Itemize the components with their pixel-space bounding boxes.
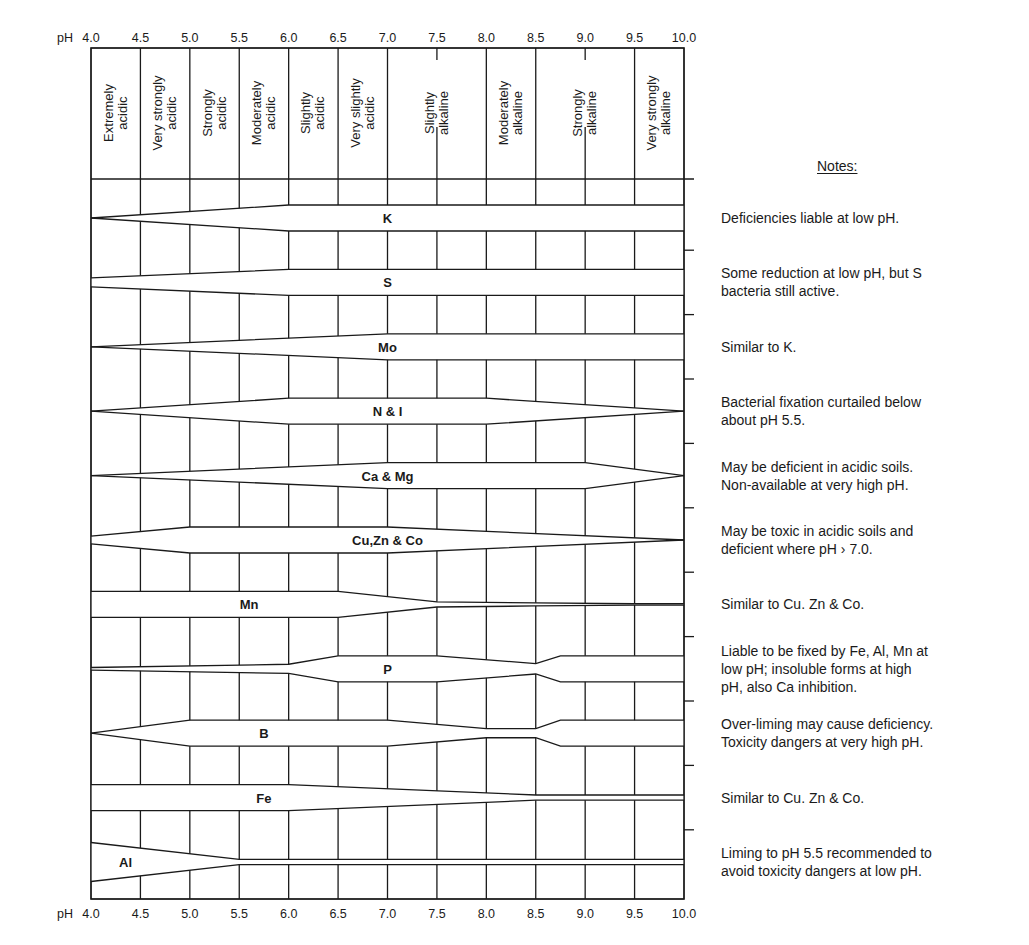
ph-tick-label-top: 8.5 [527, 31, 544, 45]
ph-tick-label-top: 4.5 [132, 31, 149, 45]
note-line: Similar to Cu. Zn & Co. [721, 789, 1021, 807]
ph-class-label: Strongly [570, 89, 585, 137]
ph-class-label: Very slightly [348, 78, 363, 148]
note-line: Non-available at very high pH. [721, 476, 1021, 494]
ph-tick-label-bottom: 8.0 [478, 907, 495, 921]
ph-class-label: acidic [362, 96, 377, 130]
ph-tick-label-top: 7.5 [428, 31, 445, 45]
note-item: Liming to pH 5.5 recommended toavoid tox… [721, 844, 1021, 880]
nutrient-label: Ca & Mg [362, 469, 414, 484]
note-line: Liable to be fixed by Fe, Al, Mn at [721, 642, 1021, 660]
ph-tick-label-bottom: 6.0 [280, 907, 297, 921]
ph-tick-label-top: 8.0 [478, 31, 495, 45]
ph-tick-label-top: 6.5 [329, 31, 346, 45]
ph-tick-label-top: 10.0 [672, 31, 696, 45]
ph-tick-label-top: 6.0 [280, 31, 297, 45]
note-line: Some reduction at low pH, but S [721, 264, 1021, 282]
ph-class-label: acidic [312, 96, 327, 130]
note-line: bacteria still active. [721, 282, 1021, 300]
ph-tick-label-bottom: 6.5 [329, 907, 346, 921]
ph-class-label: Very strongly [150, 75, 165, 151]
ph-class-header: ExtremelyacidicVery stronglyacidicStrong… [101, 48, 674, 179]
ph-class-label: Moderately [496, 80, 511, 145]
note-line: Toxicity dangers at very high pH. [721, 733, 1021, 751]
ph-tick-label-top: 5.5 [231, 31, 248, 45]
ph-tick-label-bottom: 4.0 [82, 907, 99, 921]
ph-tick-label-top: 5.0 [181, 31, 198, 45]
note-line: Over-liming may cause deficiency. [721, 715, 1021, 733]
note-item: Similar to Cu. Zn & Co. [721, 595, 1021, 613]
note-item: Over-liming may cause deficiency.Toxicit… [721, 715, 1021, 751]
ph-tick-label-bottom: 5.0 [181, 907, 198, 921]
note-item: Similar to K. [721, 338, 1021, 356]
ph-class-label: alkaline [510, 91, 525, 135]
ph-class-label: alkaline [584, 91, 599, 135]
note-line: May be deficient in acidic soils. [721, 458, 1021, 476]
axis-prefix-bottom: pH [57, 907, 73, 921]
axis-prefix-top: pH [57, 31, 73, 45]
note-item: May be toxic in acidic soils anddeficien… [721, 522, 1021, 558]
note-line: Liming to pH 5.5 recommended to [721, 844, 1021, 862]
note-line: low pH; insoluble forms at high [721, 660, 1021, 678]
ph-tick-label-bottom: 7.5 [428, 907, 445, 921]
ph-class-label: Very strongly [644, 75, 659, 151]
ph-class-label: Strongly [200, 89, 215, 137]
note-line: pH, also Ca inhibition. [721, 678, 1021, 696]
ph-tick-label-top: 9.0 [576, 31, 593, 45]
ph-class-label: Slightly [298, 92, 313, 134]
nutrient-label: K [383, 211, 393, 226]
nutrient-label: B [259, 726, 268, 741]
nutrient-label: Mn [240, 597, 259, 612]
ph-class-label: Extremely [101, 84, 116, 142]
note-line: Similar to K. [721, 338, 1021, 356]
note-line: deficient where pH › 7.0. [721, 540, 1021, 558]
ph-tick-label-bottom: 9.0 [576, 907, 593, 921]
ph-tick-label-bottom: 4.5 [132, 907, 149, 921]
note-line: Bacterial fixation curtailed below [721, 393, 1021, 411]
nutrient-label: Mo [378, 340, 397, 355]
ph-class-label: acidic [115, 96, 130, 130]
ph-class-label: acidic [263, 96, 278, 130]
note-item: May be deficient in acidic soils.Non-ava… [721, 458, 1021, 494]
note-line: avoid toxicity dangers at low pH. [721, 862, 1021, 880]
note-line: Deficiencies liable at low pH. [721, 209, 1021, 227]
ph-tick-label-top: 9.5 [626, 31, 643, 45]
nutrient-label: N & I [373, 404, 403, 419]
ph-tick-label-bottom: 10.0 [672, 907, 696, 921]
ph-tick-label-bottom: 7.0 [379, 907, 396, 921]
nutrient-label: S [383, 275, 392, 290]
ph-tick-label-bottom: 8.5 [527, 907, 544, 921]
nutrient-label: P [383, 662, 392, 677]
ph-tick-label-bottom: 9.5 [626, 907, 643, 921]
note-line: May be toxic in acidic soils and [721, 522, 1021, 540]
nutrient-band-fill [91, 720, 684, 746]
ph-class-label: alkaline [436, 91, 451, 135]
ph-class-label: Moderately [249, 80, 264, 145]
ph-class-label: acidic [214, 96, 229, 130]
ph-class-label: acidic [164, 96, 179, 130]
note-line: about pH 5.5. [721, 411, 1021, 429]
ph-class-label: Slightly [422, 92, 437, 134]
ph-tick-label-top: 7.0 [379, 31, 396, 45]
notes-title: Notes: [817, 158, 857, 174]
note-item: Bacterial fixation curtailed belowabout … [721, 393, 1021, 429]
note-item: Some reduction at low pH, but Sbacteria … [721, 264, 1021, 300]
note-item: Deficiencies liable at low pH. [721, 209, 1021, 227]
nutrient-label: Cu,Zn & Co [352, 533, 423, 548]
note-item: Liable to be fixed by Fe, Al, Mn atlow p… [721, 642, 1021, 696]
ph-tick-label-bottom: 5.5 [231, 907, 248, 921]
ph-tick-label-top: 4.0 [82, 31, 99, 45]
note-item: Similar to Cu. Zn & Co. [721, 789, 1021, 807]
note-line: Similar to Cu. Zn & Co. [721, 595, 1021, 613]
ph-class-label: alkaline [658, 91, 673, 135]
nutrient-label: Fe [256, 791, 271, 806]
nutrient-label: Al [119, 855, 132, 870]
